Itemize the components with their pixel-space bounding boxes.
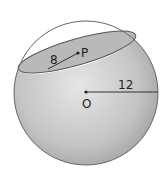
point-p bbox=[76, 51, 79, 54]
label-o: O bbox=[82, 97, 91, 111]
point-o bbox=[84, 90, 87, 93]
sphere-diagram: P 8 O 12 bbox=[0, 0, 167, 178]
label-8: 8 bbox=[50, 53, 58, 67]
label-p: P bbox=[81, 46, 88, 60]
label-12: 12 bbox=[118, 78, 133, 92]
